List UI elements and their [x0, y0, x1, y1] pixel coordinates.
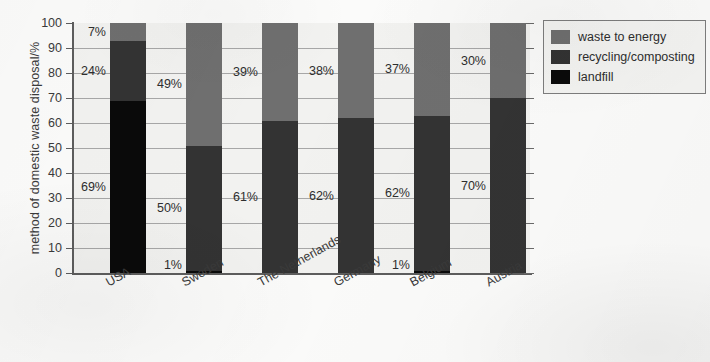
bar-group [414, 23, 450, 273]
y-tick-label: 0 [8, 267, 62, 280]
bar-value-label: 39% [220, 66, 258, 79]
y-tick-label: 10 [8, 242, 62, 255]
y-tick-label: 80 [8, 67, 62, 80]
legend-swatch [551, 50, 570, 64]
y-tick-label: 70 [8, 92, 62, 105]
bar-segment [414, 116, 450, 271]
bar-group [262, 23, 298, 273]
bar-value-label: 1% [144, 259, 182, 272]
y-tick-label: 40 [8, 167, 62, 180]
x-axis-line [72, 273, 532, 275]
y-tick-label: 60 [8, 117, 62, 130]
bar-group [338, 23, 374, 273]
y-tick-mark [66, 223, 73, 225]
bar-value-label: 50% [144, 202, 182, 215]
y-tick-label: 30 [8, 192, 62, 205]
bar-segment [490, 98, 526, 273]
legend-swatch [551, 30, 570, 44]
legend-swatch [551, 70, 570, 84]
bar-value-label: 37% [372, 63, 410, 76]
bar-segment [490, 23, 526, 98]
y-tick-mark [66, 173, 73, 175]
legend-item[interactable]: landfill [551, 67, 695, 87]
bar-value-label: 70% [448, 180, 486, 193]
y-tick-mark [66, 248, 73, 250]
bar-group [110, 23, 146, 273]
bar-group [490, 23, 526, 273]
bar-value-label: 69% [68, 181, 106, 194]
legend-label: waste to energy [578, 31, 666, 44]
y-tick-label: 20 [8, 217, 62, 230]
bar-value-label: 24% [68, 65, 106, 78]
y-tick-mark [66, 123, 73, 125]
chart-legend: waste to energyrecycling/compostinglandf… [543, 20, 706, 94]
y-tick-mark [66, 273, 73, 275]
legend-label: recycling/composting [578, 51, 695, 64]
y-tick-label: 100 [8, 17, 62, 30]
legend-item[interactable]: waste to energy [551, 27, 695, 47]
bar-segment [262, 23, 298, 121]
bar-segment [110, 101, 146, 274]
bar-segment [414, 23, 450, 116]
bar-value-label: 62% [296, 190, 334, 203]
bar-segment [186, 23, 222, 146]
bar-segment [262, 121, 298, 274]
bar-value-label: 7% [68, 26, 106, 39]
bar-value-label: 38% [296, 65, 334, 78]
legend-label: landfill [578, 71, 613, 84]
y-tick-label: 90 [8, 42, 62, 55]
bar-value-label: 30% [448, 55, 486, 68]
bar-segment [338, 118, 374, 273]
bar-segment [338, 23, 374, 118]
bar-value-label: 1% [372, 259, 410, 272]
bar-value-label: 49% [144, 78, 182, 91]
bar-value-label: 61% [220, 191, 258, 204]
bar-segment [110, 23, 146, 41]
legend-item[interactable]: recycling/composting [551, 47, 695, 67]
bar-segment [186, 146, 222, 271]
y-tick-mark [66, 98, 73, 100]
y-tick-mark [66, 148, 73, 150]
bar-value-label: 62% [372, 187, 410, 200]
bar-segment [110, 41, 146, 101]
y-tick-mark [66, 198, 73, 200]
y-tick-mark [66, 23, 73, 25]
y-tick-mark [66, 48, 73, 50]
stacked-bar-chart: method of domestic waste disposal/% 1009… [0, 0, 710, 362]
y-tick-label: 50 [8, 142, 62, 155]
bar-group [186, 23, 222, 273]
